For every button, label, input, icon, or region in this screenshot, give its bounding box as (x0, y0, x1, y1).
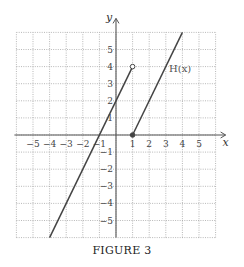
open-endpoint-icon (130, 64, 135, 69)
function-segment (133, 32, 183, 135)
y-axis-label: y (105, 11, 113, 24)
closed-endpoint-icon (130, 133, 135, 138)
x-tick-label: 3 (163, 139, 169, 149)
y-tick-label: 5 (107, 45, 113, 55)
figure-caption: FIGURE 3 (0, 244, 244, 257)
y-tick-label: −5 (100, 216, 114, 226)
x-tick-label: 5 (196, 139, 202, 149)
y-tick-label: 3 (107, 79, 113, 89)
x-tick-label: −2 (76, 139, 89, 149)
x-axis-label: x (223, 136, 230, 149)
graph-figure: −5−4−3−2−112345−5−4−3−2−112345 y x H(x) (0, 0, 244, 240)
x-tick-label: 4 (180, 139, 186, 149)
y-tick-label: −2 (100, 164, 113, 174)
y-tick-label: 4 (107, 62, 113, 72)
y-tick-label: 2 (107, 96, 113, 106)
function-label: H(x) (169, 63, 191, 74)
x-tick-label: −4 (43, 139, 57, 149)
y-tick-label: −3 (100, 181, 114, 191)
x-tick-label: −5 (26, 139, 40, 149)
y-tick-label: −4 (100, 198, 114, 208)
x-tick-label: −3 (60, 139, 74, 149)
x-tick-label: 2 (146, 139, 152, 149)
y-tick-label: −1 (100, 147, 113, 157)
axes (14, 18, 225, 237)
x-tick-label: 1 (130, 139, 136, 149)
